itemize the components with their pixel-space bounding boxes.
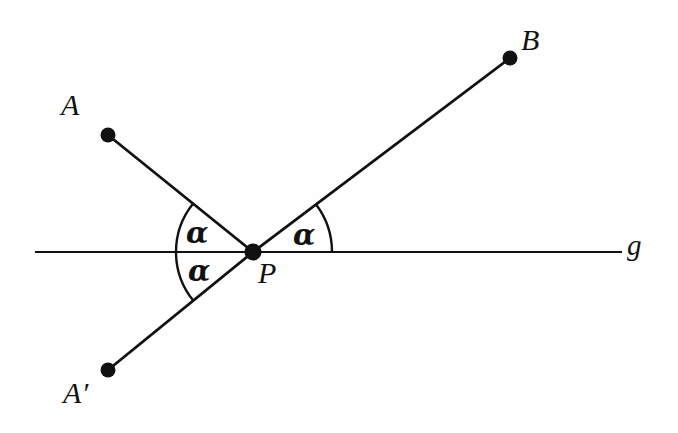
- segment-p-to-a-prime: [108, 252, 253, 370]
- segment-a-to-p: [108, 135, 253, 252]
- label-point-a-prime: A′: [63, 378, 89, 408]
- diagram-canvas: [0, 0, 678, 433]
- label-angle-lower-left: α: [188, 257, 210, 286]
- label-point-a: A: [61, 90, 80, 120]
- label-angle-upper-left: α: [186, 219, 208, 248]
- point-dot-b: [503, 51, 518, 66]
- label-point-b: B: [521, 25, 540, 55]
- label-angle-right: α: [293, 221, 315, 250]
- label-point-p: P: [258, 258, 277, 288]
- arc-right-angle: [316, 205, 332, 253]
- segment-p-to-b: [253, 58, 510, 252]
- point-dot-a: [101, 128, 116, 143]
- label-line-g: g: [627, 231, 642, 260]
- point-dot-a-prime: [101, 363, 116, 378]
- geometry-figure: A A′ B P g α α α: [0, 0, 678, 433]
